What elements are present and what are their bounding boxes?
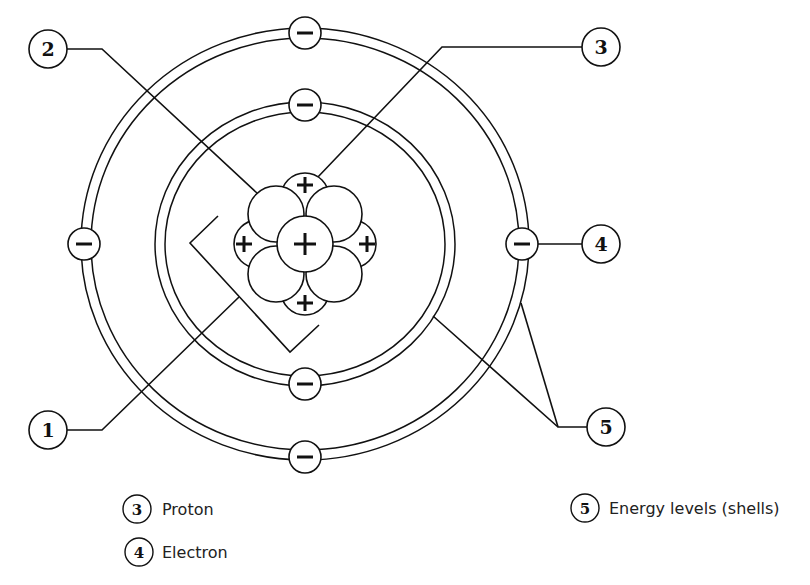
callout-2: 2 — [29, 30, 67, 68]
callout-4: 4 — [582, 225, 620, 263]
electron-inner-top — [289, 89, 321, 121]
svg-text:4: 4 — [134, 544, 144, 562]
svg-text:5: 5 — [580, 500, 590, 518]
svg-text:Electron: Electron — [162, 543, 228, 562]
svg-text:1: 1 — [41, 419, 54, 441]
legend-item-proton: 3 Proton — [123, 495, 214, 523]
callout-1: 1 — [29, 411, 67, 449]
electron-outer-left — [68, 228, 100, 260]
callout-3: 3 — [582, 28, 620, 66]
legend: 3 Proton 4 Electron 5 Energy levels (she… — [123, 494, 780, 566]
svg-text:2: 2 — [41, 38, 54, 60]
svg-text:3: 3 — [594, 36, 607, 58]
electron-outer-top — [289, 17, 321, 49]
nucleus — [234, 173, 376, 315]
legend-item-energy-levels: 5 Energy levels (shells) — [571, 494, 780, 522]
svg-text:4: 4 — [594, 233, 607, 255]
svg-text:5: 5 — [599, 416, 612, 438]
electron-outer-right — [506, 228, 538, 260]
svg-text:Proton: Proton — [162, 500, 214, 519]
callout-5: 5 — [587, 408, 625, 446]
svg-text:3: 3 — [132, 501, 142, 519]
svg-text:Energy levels (shells): Energy levels (shells) — [609, 499, 780, 518]
electron-outer-bottom — [289, 441, 321, 473]
atom-diagram: 2 3 4 1 5 3 Proton 4 Electron 5 Energy l… — [0, 0, 810, 585]
electron-inner-bottom — [289, 368, 321, 400]
legend-item-electron: 4 Electron — [125, 538, 228, 566]
